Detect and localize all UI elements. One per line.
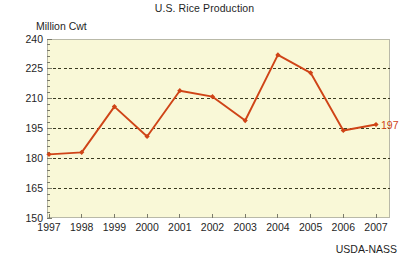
- y-axis-tick-label: 165: [13, 183, 43, 194]
- y-axis-tick-label: 210: [13, 93, 43, 104]
- plot-svg: [47, 39, 390, 218]
- chart-container: U.S. Rice Production Million Cwt 1501651…: [0, 0, 409, 270]
- chart-title: U.S. Rice Production: [0, 2, 409, 14]
- y-axis-tick-label: 180: [13, 153, 43, 164]
- data-series-line: [49, 55, 376, 154]
- y-axis-label: Million Cwt: [36, 20, 87, 32]
- y-axis-tick-label: 225: [13, 63, 43, 74]
- last-point-value-label: 197: [381, 119, 399, 131]
- x-axis-tick-labels: 1997199819992000200120022003200420052006…: [47, 221, 390, 237]
- axis-ticks: [47, 39, 376, 218]
- y-axis-tick-label: 240: [13, 34, 43, 45]
- source-attribution: USDA-NASS: [336, 243, 397, 255]
- y-axis-tick-label: 195: [13, 123, 43, 134]
- data-point: [373, 122, 378, 127]
- x-axis-tick-label: 2007: [356, 221, 396, 233]
